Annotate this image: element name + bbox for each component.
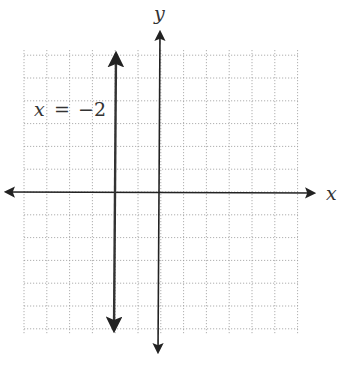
svg-text:x: x	[34, 98, 45, 120]
svg-text:=: =	[54, 98, 70, 120]
x-axis	[6, 192, 314, 193]
y-axis	[158, 32, 160, 352]
svg-text:−2: −2	[78, 98, 106, 120]
y-axis-label: y	[153, 2, 165, 24]
x-axis-label: x	[326, 182, 337, 204]
graph: y x x = −2	[0, 0, 341, 365]
line-x-eq-neg2	[114, 54, 116, 330]
line-label: x = −2	[34, 98, 106, 120]
